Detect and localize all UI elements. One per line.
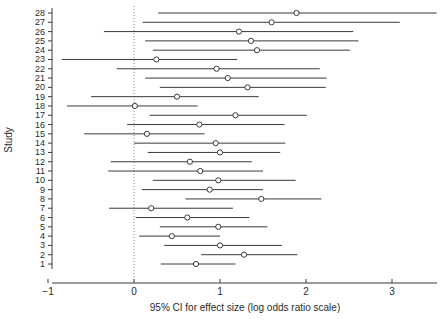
y-tick-label-6: 6 [40,213,45,223]
y-tick-label-2: 2 [40,250,45,260]
y-tick-label-24: 24 [35,45,45,55]
y-tick-label-10: 10 [35,175,45,185]
y-tick-label-4: 4 [40,231,45,241]
forest-row-study-14 [134,141,285,146]
x-tick-label-0: −1 [42,286,54,297]
point-estimate-marker [198,168,203,173]
point-estimate-marker [216,178,221,183]
point-estimate-marker [207,187,212,192]
point-estimate-marker [149,206,154,211]
forest-row-study-10 [153,178,296,183]
point-estimate-marker [259,196,264,201]
point-estimate-marker [217,150,222,155]
forest-row-study-18 [67,103,198,108]
forest-row-study-8 [186,196,322,201]
point-estimate-marker [169,234,174,239]
forest-row-study-6 [136,215,250,220]
x-tick-label-4: 3 [389,286,395,297]
y-tick-label-11: 11 [36,166,45,176]
y-tick-label-22: 22 [35,64,45,74]
point-estimate-marker [236,29,241,34]
point-estimate-marker [197,122,202,127]
forest-row-study-2 [201,252,297,257]
y-axis-title: Study [3,127,14,153]
point-estimate-marker [214,66,219,71]
y-tick-label-23: 23 [35,54,45,64]
forest-row-study-1 [161,261,236,266]
forest-row-study-27 [143,20,400,25]
point-estimate-marker [294,10,299,15]
forest-row-study-16 [127,122,284,127]
forest-row-study-26 [104,29,353,34]
y-tick-label-3: 3 [40,240,45,250]
forest-row-study-19 [91,94,259,99]
y-tick-label-12: 12 [35,157,45,167]
y-tick-label-20: 20 [35,82,45,92]
forest-row-study-13 [148,150,280,155]
forest-row-study-9 [142,187,263,192]
y-tick-label-28: 28 [35,8,45,18]
y-tick-label-19: 19 [35,92,45,102]
point-estimate-marker [269,20,274,25]
y-tick-label-8: 8 [40,194,45,204]
x-tick-label-3: 2 [303,286,309,297]
point-estimate-marker [245,85,250,90]
y-tick-label-26: 26 [35,27,45,37]
forest-row-study-7 [109,206,233,211]
y-tick-label-21: 21 [35,73,45,83]
point-estimate-marker [233,113,238,118]
forest-row-study-5 [160,224,267,229]
forest-row-study-25 [145,38,358,43]
forest-row-study-28 [158,10,437,15]
point-estimate-marker [187,159,192,164]
forest-row-study-12 [111,159,252,164]
point-estimate-marker [154,57,159,62]
y-tick-label-9: 9 [40,185,45,195]
point-estimate-marker [174,94,179,99]
y-tick-label-17: 17 [35,110,45,120]
y-tick-label-13: 13 [35,147,45,157]
point-estimate-marker [254,48,259,53]
forest-plot-figure: 1234567891011121314151617181920212223242… [0,0,445,325]
y-tick-label-1: 1 [40,259,45,269]
x-tick-label-1: 0 [131,286,137,297]
forest-row-study-23 [62,57,237,62]
x-axis-title: 95% CI for effect size (log odds ratio s… [150,302,340,313]
y-tick-label-18: 18 [35,101,45,111]
y-tick-label-14: 14 [35,138,45,148]
point-estimate-marker [144,131,149,136]
point-estimate-marker [132,103,137,108]
forest-row-study-22 [117,66,320,71]
forest-row-study-21 [145,75,326,80]
forest-row-study-24 [153,48,350,53]
point-estimate-marker [241,252,246,257]
y-tick-label-27: 27 [35,17,45,27]
y-tick-label-7: 7 [40,203,45,213]
point-estimate-marker [193,261,198,266]
point-estimate-marker [185,215,190,220]
point-estimate-marker [213,141,218,146]
forest-row-study-17 [149,113,306,118]
point-estimate-marker [216,224,221,229]
forest-row-study-11 [108,168,263,173]
forest-row-study-4 [139,234,220,239]
y-tick-label-15: 15 [35,129,45,139]
y-tick-label-16: 16 [35,120,45,130]
y-tick-label-25: 25 [35,36,45,46]
forest-row-study-15 [84,131,204,136]
point-estimate-marker [225,75,230,80]
point-estimate-marker [217,243,222,248]
forest-row-study-3 [164,243,282,248]
forest-row-study-20 [160,85,326,90]
x-tick-label-2: 1 [217,286,223,297]
y-tick-label-5: 5 [40,222,45,232]
point-estimate-marker [248,38,253,43]
